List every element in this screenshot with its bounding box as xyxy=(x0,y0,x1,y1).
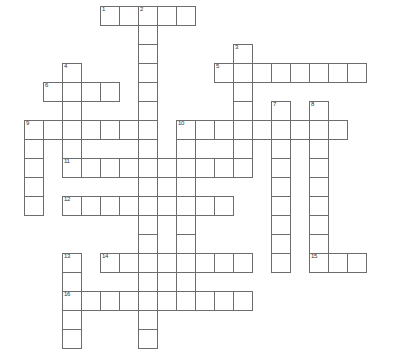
crossword-cell[interactable] xyxy=(176,253,196,273)
crossword-cell[interactable] xyxy=(62,101,82,121)
crossword-cell[interactable] xyxy=(271,139,291,159)
crossword-cell[interactable] xyxy=(347,63,367,83)
crossword-cell[interactable] xyxy=(62,63,82,83)
crossword-cell[interactable] xyxy=(176,234,196,254)
crossword-cell[interactable] xyxy=(347,253,367,273)
crossword-cell[interactable] xyxy=(176,272,196,292)
crossword-cell[interactable] xyxy=(62,291,82,311)
crossword-cell[interactable] xyxy=(214,253,234,273)
crossword-cell[interactable] xyxy=(233,82,253,102)
crossword-cell[interactable] xyxy=(62,82,82,102)
crossword-cell[interactable] xyxy=(62,272,82,292)
crossword-cell[interactable] xyxy=(233,120,253,140)
crossword-cell[interactable] xyxy=(309,253,329,273)
crossword-cell[interactable] xyxy=(176,215,196,235)
crossword-cell[interactable] xyxy=(309,196,329,216)
crossword-cell[interactable] xyxy=(176,177,196,197)
crossword-cell[interactable] xyxy=(138,120,158,140)
crossword-cell[interactable] xyxy=(138,44,158,64)
crossword-cell[interactable] xyxy=(138,177,158,197)
crossword-cell[interactable] xyxy=(138,215,158,235)
crossword-cell[interactable] xyxy=(100,82,120,102)
crossword-cell[interactable] xyxy=(271,63,291,83)
crossword-cell[interactable] xyxy=(138,310,158,330)
crossword-cell[interactable] xyxy=(233,63,253,83)
crossword-cell[interactable] xyxy=(195,196,215,216)
crossword-cell[interactable] xyxy=(62,196,82,216)
crossword-cell[interactable] xyxy=(271,158,291,178)
crossword-cell[interactable] xyxy=(271,253,291,273)
crossword-cell[interactable] xyxy=(309,101,329,121)
crossword-cell[interactable] xyxy=(252,63,272,83)
crossword-cell[interactable] xyxy=(138,196,158,216)
crossword-cell[interactable] xyxy=(176,196,196,216)
crossword-cell[interactable] xyxy=(233,253,253,273)
crossword-cell[interactable] xyxy=(309,120,329,140)
crossword-cell[interactable] xyxy=(138,291,158,311)
crossword-cell[interactable] xyxy=(233,158,253,178)
crossword-cell[interactable] xyxy=(81,120,101,140)
crossword-cell[interactable] xyxy=(309,177,329,197)
crossword-cell[interactable] xyxy=(138,272,158,292)
crossword-cell[interactable] xyxy=(138,158,158,178)
crossword-cell[interactable] xyxy=(138,253,158,273)
crossword-cell[interactable] xyxy=(176,120,196,140)
crossword-cell[interactable] xyxy=(176,158,196,178)
crossword-cell[interactable] xyxy=(176,291,196,311)
crossword-cell[interactable] xyxy=(138,25,158,45)
crossword-cell[interactable] xyxy=(328,253,348,273)
crossword-cell[interactable] xyxy=(176,6,196,26)
crossword-cell[interactable] xyxy=(81,196,101,216)
crossword-cell[interactable] xyxy=(62,310,82,330)
crossword-cell[interactable] xyxy=(157,196,177,216)
crossword-cell[interactable] xyxy=(214,291,234,311)
crossword-cell[interactable] xyxy=(138,139,158,159)
crossword-cell[interactable] xyxy=(119,6,139,26)
crossword-cell[interactable] xyxy=(195,253,215,273)
crossword-cell[interactable] xyxy=(81,291,101,311)
crossword-cell[interactable] xyxy=(195,120,215,140)
crossword-cell[interactable] xyxy=(233,291,253,311)
crossword-cell[interactable] xyxy=(24,120,44,140)
crossword-cell[interactable] xyxy=(100,291,120,311)
crossword-cell[interactable] xyxy=(233,44,253,64)
crossword-cell[interactable] xyxy=(328,120,348,140)
crossword-cell[interactable] xyxy=(214,120,234,140)
crossword-cell[interactable] xyxy=(214,158,234,178)
crossword-cell[interactable] xyxy=(309,215,329,235)
crossword-cell[interactable] xyxy=(119,120,139,140)
crossword-cell[interactable] xyxy=(62,253,82,273)
crossword-cell[interactable] xyxy=(81,158,101,178)
crossword-cell[interactable] xyxy=(233,139,253,159)
crossword-cell[interactable] xyxy=(138,329,158,349)
crossword-cell[interactable] xyxy=(214,196,234,216)
crossword-cell[interactable] xyxy=(138,82,158,102)
crossword-cell[interactable] xyxy=(309,63,329,83)
crossword-cell[interactable] xyxy=(138,6,158,26)
crossword-cell[interactable] xyxy=(271,101,291,121)
crossword-cell[interactable] xyxy=(100,158,120,178)
crossword-cell[interactable] xyxy=(24,196,44,216)
crossword-cell[interactable] xyxy=(119,196,139,216)
crossword-cell[interactable] xyxy=(24,158,44,178)
crossword-cell[interactable] xyxy=(290,120,310,140)
crossword-cell[interactable] xyxy=(119,253,139,273)
crossword-cell[interactable] xyxy=(62,139,82,159)
crossword-cell[interactable] xyxy=(271,196,291,216)
crossword-cell[interactable] xyxy=(195,158,215,178)
crossword-cell[interactable] xyxy=(157,158,177,178)
crossword-cell[interactable] xyxy=(252,120,272,140)
crossword-grid[interactable]: 12345678910111213141516 xyxy=(0,0,397,362)
crossword-cell[interactable] xyxy=(138,63,158,83)
crossword-cell[interactable] xyxy=(176,139,196,159)
crossword-cell[interactable] xyxy=(62,120,82,140)
crossword-cell[interactable] xyxy=(271,234,291,254)
crossword-cell[interactable] xyxy=(100,253,120,273)
crossword-cell[interactable] xyxy=(119,158,139,178)
crossword-cell[interactable] xyxy=(309,234,329,254)
crossword-cell[interactable] xyxy=(309,139,329,159)
crossword-cell[interactable] xyxy=(233,101,253,121)
crossword-cell[interactable] xyxy=(290,63,310,83)
crossword-cell[interactable] xyxy=(100,196,120,216)
crossword-cell[interactable] xyxy=(43,82,63,102)
